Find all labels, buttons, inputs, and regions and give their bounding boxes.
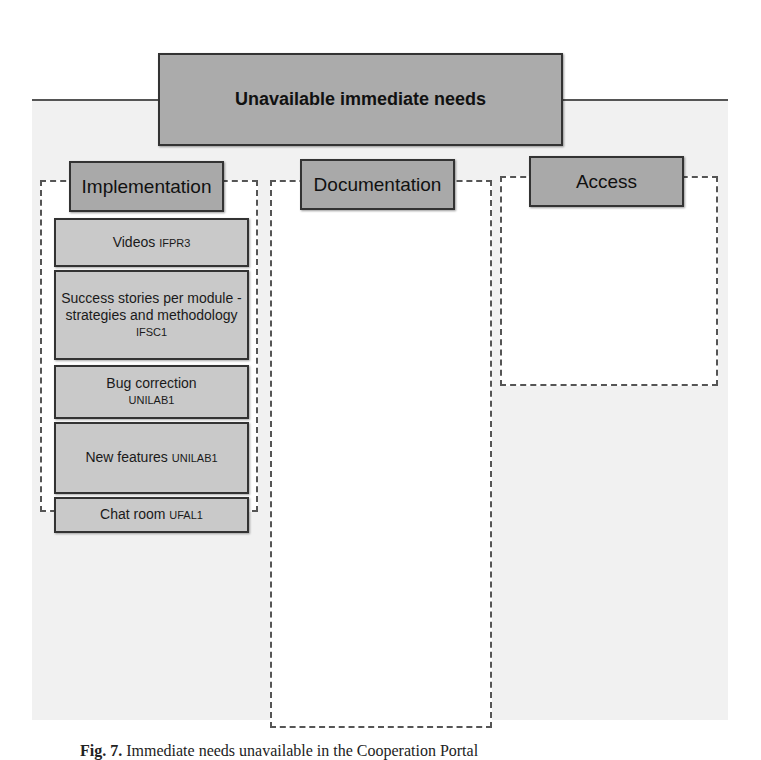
item-code: UNILAB1: [129, 392, 175, 409]
implementation-item: Bug correction UNILAB1: [54, 365, 249, 419]
item-text: Chat room: [100, 506, 165, 522]
figure-caption: Fig. 7. Immediate needs unavailable in t…: [80, 742, 478, 760]
group-header-documentation: Documentation: [300, 159, 455, 210]
group-header-access: Access: [529, 156, 684, 207]
item-code: IFSC1: [136, 324, 167, 341]
item-text: Videos: [113, 234, 156, 250]
group-access: [500, 176, 718, 386]
implementation-item: Chat room UFAL1: [54, 497, 249, 533]
group-documentation: [270, 180, 492, 728]
implementation-item: Videos IFPR3: [54, 218, 249, 267]
group-header-implementation: Implementation: [69, 161, 224, 212]
item-text: Success stories per module - strategies …: [60, 290, 243, 324]
item-text: Bug correction: [106, 375, 196, 392]
implementation-item: New features UNILAB1: [54, 422, 249, 494]
item-code: UFAL1: [169, 509, 203, 521]
item-text: New features: [85, 449, 167, 465]
implementation-item: Success stories per module - strategies …: [54, 270, 249, 360]
diagram-title: Unavailable immediate needs: [158, 53, 563, 146]
item-code: UNILAB1: [172, 452, 218, 464]
item-code: IFPR3: [159, 237, 190, 249]
